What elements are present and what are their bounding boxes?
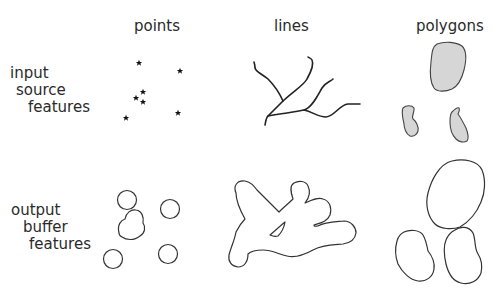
point-icon bbox=[140, 89, 146, 95]
output-point-buffers bbox=[104, 191, 180, 269]
point-icon bbox=[177, 68, 183, 74]
output-line-buffer bbox=[229, 181, 356, 267]
point-icon bbox=[136, 60, 142, 66]
input-polygons bbox=[402, 42, 468, 142]
point-icon bbox=[175, 110, 181, 116]
input-points bbox=[123, 60, 183, 121]
input-lines bbox=[254, 57, 360, 125]
point-icon bbox=[140, 99, 146, 105]
point-icon bbox=[123, 115, 129, 121]
output-polygon-buffers bbox=[396, 160, 485, 284]
diagram-canvas bbox=[0, 0, 500, 294]
point-icon bbox=[133, 95, 139, 101]
